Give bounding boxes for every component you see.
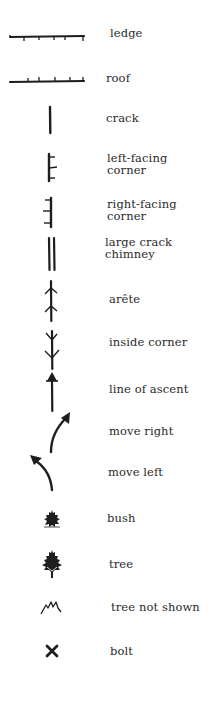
legend-label: left-facing corner: [107, 152, 167, 176]
arete-icon: [43, 280, 59, 322]
left-facing-corner-icon: [45, 152, 59, 182]
zigzag-icon: [40, 599, 62, 615]
legend-label: bush: [107, 512, 135, 524]
bush-icon: [42, 509, 62, 529]
legend-label: bolt: [110, 645, 133, 657]
roof-line-icon: [8, 73, 86, 85]
ledge-line-icon: [8, 30, 86, 42]
curved-arrow-left-icon: [27, 450, 55, 492]
climbing-topo-legend: ledge roof crack: [0, 0, 214, 703]
arrow-up-icon: [44, 370, 60, 412]
legend-label: inside corner: [109, 336, 187, 348]
legend-label: tree: [109, 558, 133, 570]
right-facing-corner-icon: [41, 196, 55, 228]
inside-corner-icon: [43, 330, 61, 370]
crack-line-icon: [46, 106, 54, 134]
legend-label: right-facing corner: [107, 198, 177, 222]
legend-label: crack: [106, 112, 139, 124]
legend-label: roof: [106, 72, 130, 84]
x-mark-icon: [44, 644, 60, 658]
curved-arrow-right-icon: [46, 410, 74, 454]
legend-label: line of ascent: [109, 383, 189, 395]
legend-label: move left: [108, 466, 163, 478]
legend-label: ledge: [110, 27, 143, 39]
legend-label: move right: [109, 425, 173, 437]
legend-label: large crack chimney: [105, 236, 172, 260]
tree-icon: [40, 549, 64, 579]
legend-label: arête: [109, 293, 140, 305]
legend-label: tree not shown: [111, 601, 200, 613]
double-line-icon: [46, 237, 58, 271]
